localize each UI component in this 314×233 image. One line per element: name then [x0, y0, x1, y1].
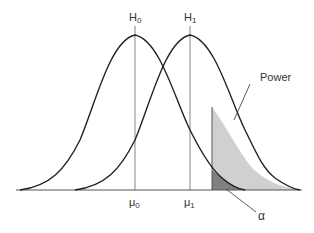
alpha-label: α	[258, 210, 265, 222]
power-diagram: H0 H1 μ0 μ1 Power α	[0, 0, 314, 233]
h1-label: H1	[184, 12, 196, 25]
power-label: Power	[260, 72, 291, 83]
h0-label: H0	[129, 12, 141, 25]
power-region	[212, 107, 300, 190]
alpha-pointer	[226, 189, 256, 212]
mu0-label: μ0	[129, 197, 140, 210]
diagram-svg	[0, 0, 314, 233]
h0-curve	[20, 35, 245, 190]
h1-curve	[75, 35, 300, 190]
power-pointer	[234, 84, 250, 120]
mu1-label: μ1	[184, 197, 195, 210]
